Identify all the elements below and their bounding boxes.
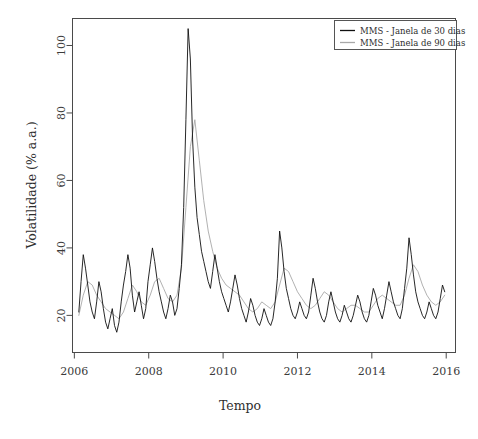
- y-tick-label: 80: [56, 106, 69, 120]
- y-tick-label: 40: [56, 241, 69, 255]
- x-tick-label: 2014: [358, 365, 386, 378]
- legend-label-mms-30: MMS - Janela de 30 dias: [360, 26, 465, 36]
- chart-figure: 20406080100 200620082010201220142016 MMS…: [0, 0, 478, 439]
- x-axis-title: Tempo: [219, 398, 261, 413]
- chart-legend: MMS - Janela de 30 dias MMS - Janela de …: [335, 21, 466, 50]
- x-tick-label: 2010: [209, 365, 237, 378]
- x-tick-label: 2006: [60, 365, 88, 378]
- x-tick-label: 2016: [432, 365, 460, 378]
- y-tick-label: 20: [56, 308, 69, 322]
- volatility-line-chart: 20406080100 200620082010201220142016 MMS…: [0, 0, 478, 439]
- x-tick-label: 2012: [283, 365, 311, 378]
- y-tick-label: 100: [56, 35, 69, 56]
- legend-label-mms-90: MMS - Janela de 90 dias: [360, 38, 465, 48]
- y-axis-title: Volatilidade (% a.a.): [24, 121, 39, 249]
- y-tick-label: 60: [56, 173, 69, 187]
- x-tick-label: 2008: [135, 365, 163, 378]
